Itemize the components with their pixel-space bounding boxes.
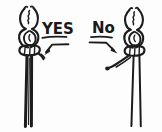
no-label-underline — [91, 37, 112, 38]
no-annotation: No — [90, 19, 118, 54]
right-rope-strands — [131, 56, 140, 127]
left-knot-upper-loop — [20, 6, 38, 29]
no-arrow-shaft — [90, 42, 115, 50]
right-short-tail — [105, 56, 130, 71]
figure-drawing: YES No — [0, 0, 162, 132]
no-label: No — [92, 19, 115, 37]
left-knot-drawing — [19, 6, 44, 126]
yes-annotation: YES — [41, 20, 74, 55]
right-tail-tip — [105, 67, 110, 71]
left-rope-tail — [25, 56, 31, 127]
yes-arrow-head — [44, 48, 50, 55]
left-knot-collar — [19, 45, 39, 55]
right-knot-collar — [125, 46, 145, 56]
knot-comparison-figure: YES No — [0, 0, 162, 132]
yes-label: YES — [41, 20, 74, 38]
right-knot-upper-loop — [125, 8, 143, 30]
